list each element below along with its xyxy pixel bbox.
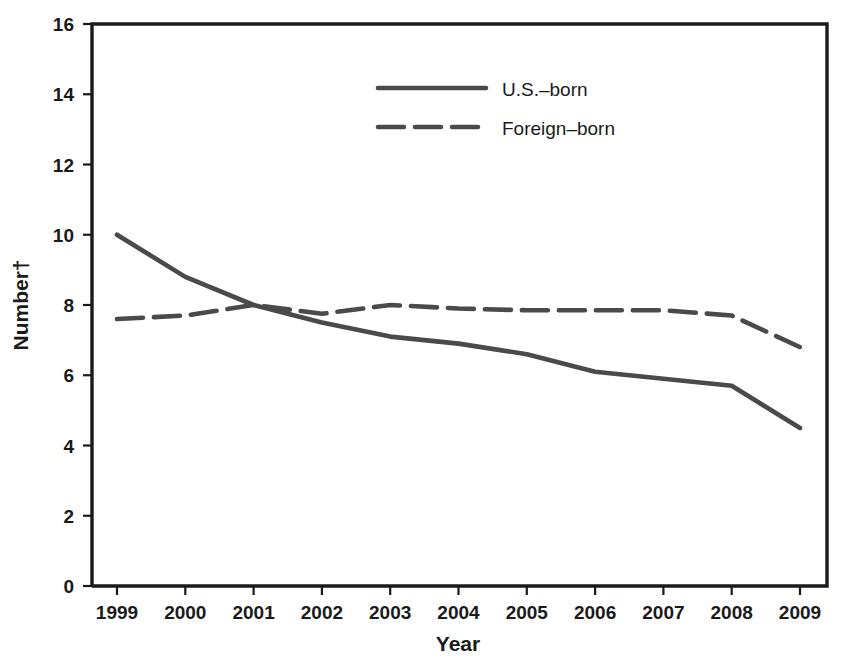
y-tick-label: 2: [63, 506, 74, 527]
y-tick-label: 12: [53, 155, 74, 176]
x-tick-label: 1999: [96, 602, 138, 623]
plot-frame: [92, 24, 827, 586]
data-series-group: [117, 235, 800, 428]
y-tick-label: 0: [63, 576, 74, 597]
x-tick-label: 2000: [164, 602, 206, 623]
legend-label-us-born: U.S.–born: [502, 79, 588, 100]
x-tick-label: 2006: [574, 602, 616, 623]
chart-legend: U.S.–born Foreign–born: [378, 79, 615, 139]
y-tick-label: 4: [63, 436, 74, 457]
x-tick-label: 2002: [301, 602, 343, 623]
y-tick-label: 14: [53, 84, 75, 105]
line-chart-figure: 16 14 12 10 8 6 4 2 0 Number†: [0, 0, 846, 661]
x-tick-label: 2004: [437, 602, 480, 623]
x-tick-label: 2005: [506, 602, 549, 623]
y-axis-tick-labels: 16 14 12 10 8 6 4 2 0: [53, 14, 75, 597]
series-line-foreign-born: [117, 305, 800, 347]
x-tick-label: 2001: [232, 602, 275, 623]
x-axis-tick-labels: 1999 2000 2001 2002 2003 2004 2005 2006 …: [96, 602, 821, 623]
x-axis-title: Year: [436, 632, 480, 655]
y-tick-label: 8: [63, 295, 74, 316]
x-tick-label: 2007: [642, 602, 684, 623]
legend-label-foreign-born: Foreign–born: [502, 118, 615, 139]
y-tick-label: 10: [53, 225, 74, 246]
chart-svg: 16 14 12 10 8 6 4 2 0 Number†: [0, 0, 846, 661]
y-tick-label: 6: [63, 365, 74, 386]
y-tick-label: 16: [53, 14, 74, 35]
series-line-us-born: [117, 235, 800, 428]
x-tick-label: 2003: [369, 602, 411, 623]
x-tick-label: 2008: [711, 602, 753, 623]
x-tick-label: 2009: [779, 602, 821, 623]
y-axis-title: Number†: [9, 259, 32, 350]
